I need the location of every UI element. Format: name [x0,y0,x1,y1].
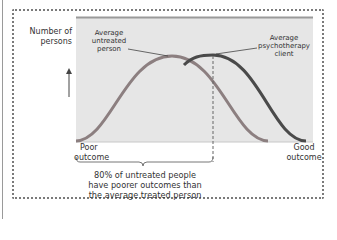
poor-outcome-line1: Poor [74,143,114,153]
y-axis-label: Number of persons [22,27,72,47]
good-outcome-line2: outcome [284,153,324,163]
up-arrow-icon [66,68,72,74]
untreated-callout: Average untreated person [86,29,132,53]
untreated-callout-line1: Average [86,29,132,37]
caption-line2: have poorer outcomes than [80,180,210,190]
treated-callout: Average psychotherapy client [256,34,312,58]
treated-callout-line3: client [256,50,312,58]
treated-callout-line1: Average [256,34,312,42]
percentile-caption: 80% of untreated people have poorer outc… [80,170,210,200]
poor-outcome-line2: outcome [74,153,114,163]
untreated-callout-line3: person [86,45,132,53]
treated-callout-line2: psychotherapy [256,42,312,50]
y-axis-label-line1: Number of [22,27,72,37]
y-axis-label-line2: persons [22,37,72,47]
good-outcome-line1: Good [284,143,324,153]
untreated-callout-line2: untreated [86,37,132,45]
good-outcome-label: Good outcome [284,143,324,163]
caption-line3: the average treated person [80,190,210,200]
caption-line1: 80% of untreated people [80,170,210,180]
poor-outcome-label: Poor outcome [74,143,114,163]
